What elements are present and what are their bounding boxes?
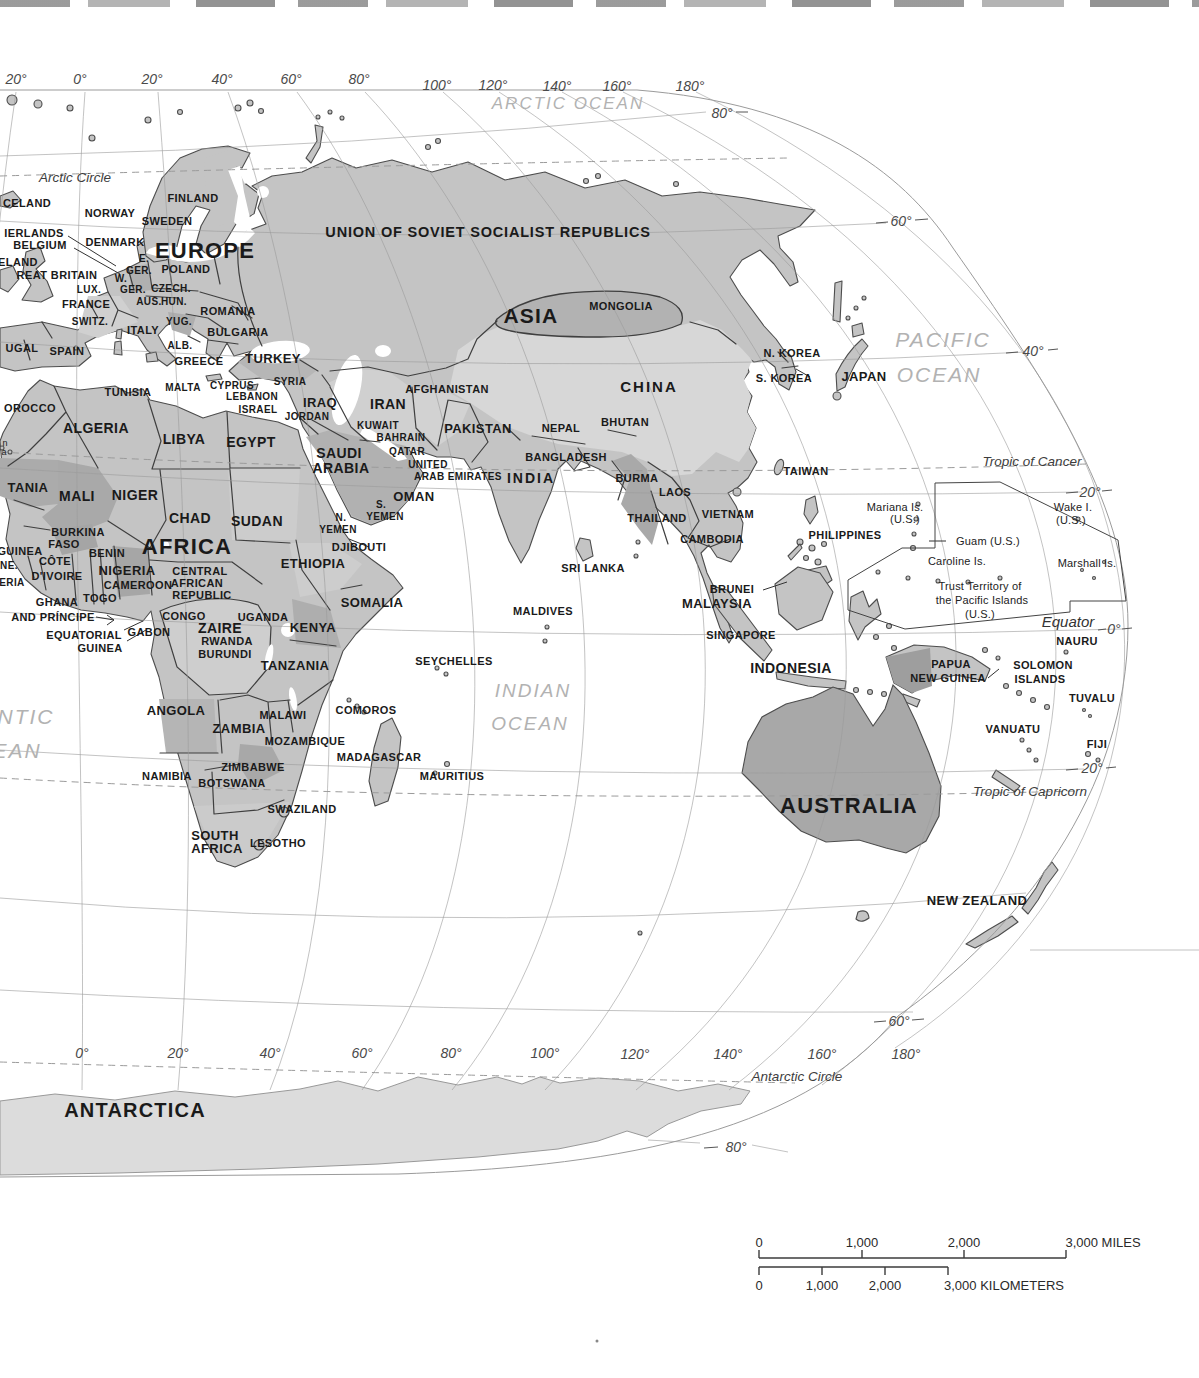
map-label-60: 60° xyxy=(890,214,911,228)
map-label-20: 20° xyxy=(141,72,162,86)
map-label-orocco: OROCCO xyxy=(4,403,56,414)
map-label-e: E. xyxy=(139,254,149,264)
map-label-lebanon: LEBANON xyxy=(226,392,278,402)
map-label-solomon: SOLOMON xyxy=(1013,660,1073,671)
map-label-u-s: (U.S.) xyxy=(890,514,920,525)
map-label-yemen: YEMEN xyxy=(319,525,357,535)
map-label-cambodia: CAMBODIA xyxy=(680,534,744,545)
map-label-3-000-kilometers: 3,000 KILOMETERS xyxy=(944,1279,1064,1292)
map-label-caroline-is: Caroline Is. xyxy=(928,556,986,567)
map-label-a: a xyxy=(1,448,6,457)
map-label-antarctica: ANTARCTICA xyxy=(64,1100,206,1120)
map-label-bulgaria: BULGARIA xyxy=(207,327,268,338)
atlas-page: 20°0°20°40°60°80°100°120°140°160°180°80°… xyxy=(0,0,1199,1378)
map-label-80: 80° xyxy=(348,72,369,86)
map-label-arctic-circle: Arctic Circle xyxy=(39,171,111,185)
map-label-0: 0 xyxy=(755,1279,762,1292)
map-label-sri-lanka: SRI LANKA xyxy=(561,563,625,574)
map-label-egypt: EGYPT xyxy=(226,435,275,449)
map-label-kenya: KENYA xyxy=(290,621,336,634)
map-label-140: 140° xyxy=(714,1047,743,1061)
map-label-france: FRANCE xyxy=(62,299,110,310)
map-label-chad: CHAD xyxy=(169,511,211,525)
map-label-malaysia: MALAYSIA xyxy=(682,597,752,610)
map-label-burma: BURMA xyxy=(616,473,659,484)
map-label-thailand: THAILAND xyxy=(627,513,686,524)
map-label-ethiopia: ETHIOPIA xyxy=(281,557,346,570)
map-label-somalia: SOMALIA xyxy=(341,596,404,609)
map-label-singapore: SINGAPORE xyxy=(706,630,776,641)
map-label-tropic-of-capricorn: Tropic of Capricorn xyxy=(973,785,1087,799)
map-label-100: 100° xyxy=(531,1046,560,1060)
map-label-asia: ASIA xyxy=(504,305,559,326)
map-label-equatorial: EQUATORIAL xyxy=(46,630,122,641)
map-label-italy: ITALY xyxy=(127,325,159,336)
map-label-malawi: MALAWI xyxy=(259,710,306,721)
map-label-marshall-is: Marshall Is. xyxy=(1058,558,1117,569)
map-label-hun: HUN. xyxy=(161,297,187,307)
map-label-denmark: DENMARK xyxy=(85,237,144,248)
map-label-laos: LAOS xyxy=(659,487,691,498)
map-label-40: 40° xyxy=(1022,344,1043,358)
map-label-fiji: FIJI xyxy=(1087,739,1108,750)
map-label-160: 160° xyxy=(808,1047,837,1061)
map-label-djibouti: DJIBOUTI xyxy=(332,542,387,553)
map-label-china: CHINA xyxy=(620,379,678,394)
map-label-guam-u-s: Guam (U.S.) xyxy=(956,536,1020,547)
map-label-israel: ISRAEL xyxy=(238,405,277,415)
map-label-romania: ROMANIA xyxy=(200,306,255,317)
map-label-2-000: 2,000 xyxy=(948,1236,981,1249)
map-label-uganda: UGANDA xyxy=(238,612,289,623)
map-label-indian: INDIAN xyxy=(495,681,571,700)
map-label-ger: GER. xyxy=(126,266,152,276)
label-layer: 20°0°20°40°60°80°100°120°140°160°180°80°… xyxy=(0,0,1199,1378)
map-label-0: 0° xyxy=(73,72,86,86)
map-label-mariana-is: Mariana Is. xyxy=(867,502,924,513)
map-label-u-s: (U.S.) xyxy=(965,609,995,620)
map-label-60: 60° xyxy=(888,1014,909,1028)
map-label-n-korea: N. KOREA xyxy=(764,348,821,359)
map-label-bahrain: BAHRAIN xyxy=(377,433,426,443)
map-label-20: 20° xyxy=(1081,761,1102,775)
map-label-c-te: CÔTE xyxy=(39,556,71,567)
map-label-oman: OMAN xyxy=(393,490,434,503)
map-label-s: S. xyxy=(376,500,386,510)
map-label-benin: BENIN xyxy=(89,548,125,559)
map-label-120: 120° xyxy=(621,1047,650,1061)
map-label-papua: PAPUA xyxy=(931,659,971,670)
map-label-yug: YUG. xyxy=(166,317,192,327)
map-label-iraq: IRAQ xyxy=(303,396,337,409)
map-label-cyprus: CYPRUS xyxy=(210,381,254,391)
map-label-norway: NORWAY xyxy=(85,208,136,219)
map-label-120: 120° xyxy=(479,78,508,92)
map-label-guinea: GUINEA xyxy=(77,643,122,654)
map-label-3-000-miles: 3,000 MILES xyxy=(1065,1236,1140,1249)
map-label-40: 40° xyxy=(259,1046,280,1060)
map-label-gabon: GABON xyxy=(128,627,171,638)
map-label-0: 0° xyxy=(1107,622,1120,636)
map-label-vietnam: VIETNAM xyxy=(702,509,754,520)
map-label-2-000: 2,000 xyxy=(869,1279,902,1292)
map-label-saudi: SAUDI xyxy=(316,446,362,460)
map-label-ocean: OCEAN xyxy=(897,364,982,385)
map-label-tropic-of-cancer: Tropic of Cancer xyxy=(983,455,1082,469)
map-label-mali: MALI xyxy=(59,489,95,503)
map-label-mauritius: MAURITIUS xyxy=(420,771,485,782)
map-label-arab-emirates: ARAB EMIRATES xyxy=(414,472,502,482)
map-label-seychelles: SEYCHELLES xyxy=(415,656,492,667)
map-label-finland: FINLAND xyxy=(167,193,218,204)
map-label-ger: GER. xyxy=(120,285,146,295)
map-label-australia: AUSTRALIA xyxy=(780,795,918,817)
map-label-niger: NIGER xyxy=(112,488,158,502)
map-label-60: 60° xyxy=(351,1046,372,1060)
map-label-africa: AFRICA xyxy=(191,842,243,855)
map-label-80: 80° xyxy=(725,1140,746,1154)
map-label-d-ivoire: D'IVOIRE xyxy=(31,571,82,582)
map-label-mongolia: MONGOLIA xyxy=(589,301,653,312)
map-label-ntic: NTIC xyxy=(0,706,55,727)
map-label-angola: ANGOLA xyxy=(147,704,206,717)
map-label-comoros: COMOROS xyxy=(336,705,397,716)
map-label-african: AFRICAN xyxy=(171,578,223,589)
map-label-republic: REPUBLIC xyxy=(172,590,231,601)
map-label-eria: ERIA xyxy=(0,578,25,588)
